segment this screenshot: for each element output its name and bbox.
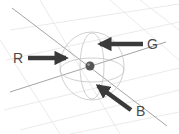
label-r: R	[13, 51, 23, 65]
scene-svg	[0, 0, 179, 134]
label-g: G	[147, 37, 158, 51]
viewport: R G B	[0, 0, 179, 134]
light-sphere-icon[interactable]	[86, 62, 95, 71]
label-b: B	[136, 104, 145, 118]
